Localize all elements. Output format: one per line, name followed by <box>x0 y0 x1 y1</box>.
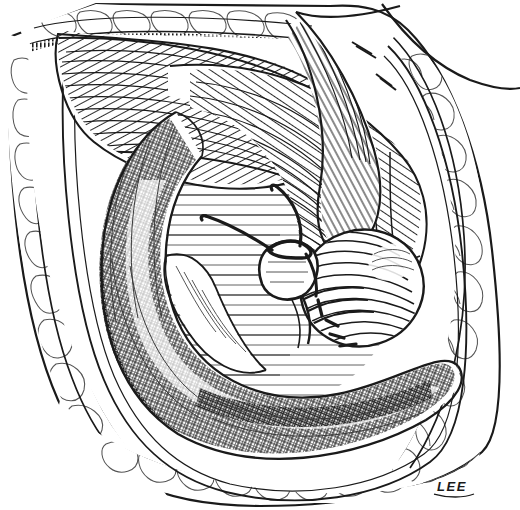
signature-text: LEE <box>437 479 467 494</box>
surgical-illustration-figure: LEE <box>0 0 520 510</box>
illustration-canvas: LEE <box>0 0 520 510</box>
